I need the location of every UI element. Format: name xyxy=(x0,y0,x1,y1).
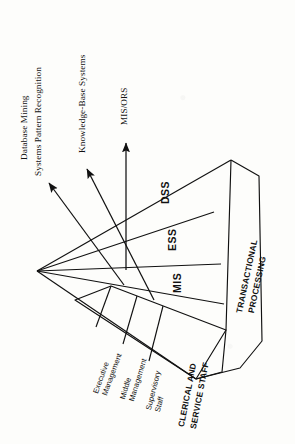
callout-mis-ors-line1: MIS/ORS xyxy=(119,88,129,125)
callout-data-mining-line2: Systems Pattern Recognition xyxy=(33,67,43,176)
figure-canvas: Database Mining Systems Pattern Recognit… xyxy=(0,0,295,444)
callout-data-mining-line1: Database Mining xyxy=(19,95,29,160)
pyramid-diagram-graphic xyxy=(0,0,295,444)
tier-mis-acronym: MIS xyxy=(172,273,184,293)
tier-dss-acronym: DSS xyxy=(160,181,172,204)
callout-knowledge-base-line1: Knowledge-Base Systems xyxy=(77,55,87,153)
pyramid-outline xyxy=(37,160,262,379)
tier-ess-acronym: ESS xyxy=(167,228,179,251)
